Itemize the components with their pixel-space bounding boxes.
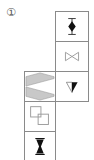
bowtie-outline-icon <box>56 42 88 71</box>
cell-bowtie <box>55 41 89 72</box>
hourglass-icon <box>25 132 55 160</box>
overlapping-squares-icon <box>25 102 55 131</box>
cell-chevron <box>24 71 56 102</box>
cell-squares <box>24 101 56 132</box>
cell-hourglass <box>24 131 56 160</box>
figure-label: ① <box>6 7 16 19</box>
gray-chevron-icon <box>25 72 55 101</box>
diamond-with-bar-icon <box>56 12 88 41</box>
cell-triangle <box>55 71 89 102</box>
cell-diamond <box>55 11 89 42</box>
half-filled-down-triangle-icon <box>56 72 88 101</box>
